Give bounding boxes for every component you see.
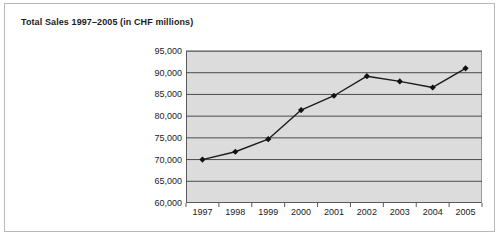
y-axis-tick-label: 60,000 — [154, 198, 182, 208]
data-point-marker — [430, 84, 436, 90]
series-total-sales — [186, 51, 482, 203]
y-axis-tick-label: 65,000 — [154, 176, 182, 186]
x-axis-tick-label: 1998 — [225, 207, 245, 217]
x-axis-tick-label: 2004 — [423, 207, 443, 217]
chart-frame: Total Sales 1997–2005 (in CHF millions) … — [4, 3, 495, 232]
y-axis-labels: 95,00090,00085,00080,00075,00070,00065,0… — [130, 51, 182, 203]
x-axis-labels: 199719981999200020012002200320042005 — [186, 207, 482, 221]
x-axis-tick-label: 2000 — [291, 207, 311, 217]
data-point-marker — [199, 156, 205, 162]
x-axis-tick-label: 1997 — [192, 207, 212, 217]
data-point-marker — [331, 93, 337, 99]
y-axis-tick-label: 85,000 — [154, 89, 182, 99]
x-axis-tick-label: 2001 — [324, 207, 344, 217]
y-axis-tick-label: 75,000 — [154, 133, 182, 143]
x-axis-tick-label: 2002 — [357, 207, 377, 217]
data-point-marker — [364, 73, 370, 79]
series-line — [202, 68, 465, 159]
x-axis-tick-label: 1999 — [258, 207, 278, 217]
data-point-marker — [232, 149, 238, 155]
chart-screenshot: Total Sales 1997–2005 (in CHF millions) … — [0, 0, 500, 236]
y-axis-tick-label: 80,000 — [154, 111, 182, 121]
y-axis-tick-label: 70,000 — [154, 155, 182, 165]
data-point-marker — [462, 65, 468, 71]
y-axis-tick-label: 95,000 — [154, 46, 182, 56]
chart-title: Total Sales 1997–2005 (in CHF millions) — [21, 17, 193, 27]
data-point-marker — [397, 78, 403, 84]
x-axis-tick-label: 2005 — [456, 207, 476, 217]
x-axis-tick-label: 2003 — [390, 207, 410, 217]
plot-wrapper — [186, 51, 482, 203]
y-axis-tick-label: 90,000 — [154, 68, 182, 78]
